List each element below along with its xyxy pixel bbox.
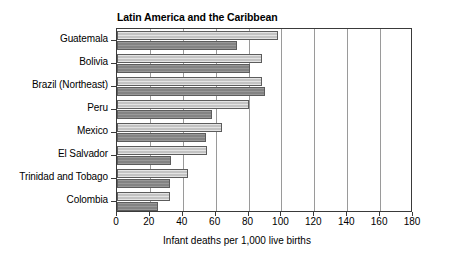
bar-light bbox=[117, 192, 170, 201]
category-label: Trinidad and Tobago bbox=[19, 171, 108, 182]
category-label: Bolivia bbox=[79, 56, 108, 67]
bar-light bbox=[117, 54, 262, 63]
category-label: Guatemala bbox=[60, 33, 108, 44]
category-label: Mexico bbox=[77, 125, 108, 136]
x-axis-tick-labels: 020406080100120140160180 bbox=[0, 216, 474, 230]
bar-group bbox=[117, 54, 411, 77]
x-tick-label-20: 20 bbox=[143, 216, 154, 227]
bars-layer bbox=[117, 29, 411, 211]
x-axis-title: Infant deaths per 1,000 live births bbox=[0, 235, 474, 246]
category-axis-labels: GuatemalaBoliviaBrazil (Northeast)PeruMe… bbox=[0, 28, 112, 212]
x-tick-label-100: 100 bbox=[272, 216, 289, 227]
bar-light bbox=[117, 169, 188, 178]
bar-group bbox=[117, 123, 411, 146]
bar-dark bbox=[117, 202, 158, 211]
infant-mortality-bar-chart: Latin America and the Caribbean Guatemal… bbox=[0, 0, 474, 262]
bar-dark bbox=[117, 156, 171, 165]
bar-group bbox=[117, 100, 411, 123]
x-tick-label-0: 0 bbox=[113, 216, 119, 227]
bar-group bbox=[117, 77, 411, 100]
bar-light bbox=[117, 100, 249, 109]
category-label: Colombia bbox=[67, 194, 108, 205]
category-label: Brazil (Northeast) bbox=[32, 79, 108, 90]
x-tick-label-60: 60 bbox=[209, 216, 220, 227]
bar-dark bbox=[117, 64, 250, 73]
category-label: Peru bbox=[87, 102, 108, 113]
bar-light bbox=[117, 123, 222, 132]
x-tick-label-140: 140 bbox=[338, 216, 355, 227]
x-tick-label-120: 120 bbox=[305, 216, 322, 227]
chart-title: Latin America and the Caribbean bbox=[117, 11, 277, 23]
category-label: El Salvador bbox=[58, 148, 108, 159]
x-tick-label-40: 40 bbox=[176, 216, 187, 227]
x-tick-label-160: 160 bbox=[371, 216, 388, 227]
plot-area bbox=[116, 28, 412, 212]
bar-dark bbox=[117, 133, 206, 142]
bar-dark bbox=[117, 179, 170, 188]
bar-light bbox=[117, 77, 262, 86]
bar-group bbox=[117, 146, 411, 169]
bar-light bbox=[117, 31, 278, 40]
bar-light bbox=[117, 146, 207, 155]
bar-dark bbox=[117, 87, 265, 96]
x-tick-label-80: 80 bbox=[242, 216, 253, 227]
bar-group bbox=[117, 31, 411, 54]
bar-dark bbox=[117, 110, 212, 119]
bar-dark bbox=[117, 41, 237, 50]
bar-group bbox=[117, 169, 411, 192]
x-tick-label-180: 180 bbox=[404, 216, 421, 227]
